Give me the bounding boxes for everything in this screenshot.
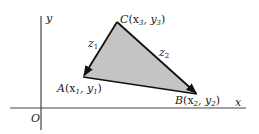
edge-z1-label: z1	[87, 37, 98, 51]
vertex-c-label: C(x3, y3)	[120, 13, 165, 27]
vertex-a-label: A(x1, y1)	[56, 82, 102, 96]
x-axis-label: x	[235, 96, 242, 109]
edge-z2-label: z2	[158, 46, 169, 60]
origin-label: O	[31, 112, 40, 125]
triangle-diagram: y x O C(x3, y3) A(x1, y1) B(x2, y2) z1 z…	[0, 0, 259, 134]
vertex-b-label: B(x2, y2)	[174, 94, 220, 108]
y-axis-label: y	[45, 12, 53, 25]
